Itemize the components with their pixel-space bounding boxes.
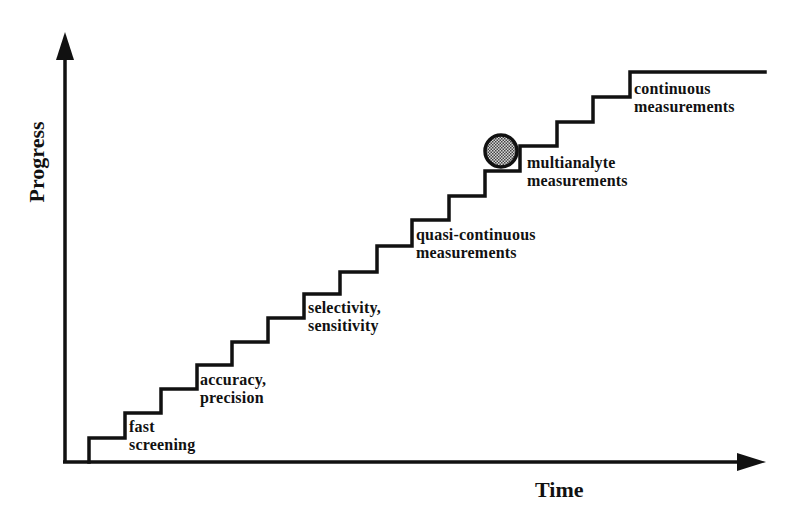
stage-label-line1: quasi-continuous <box>416 226 536 244</box>
stage-label-line1: accuracy, <box>200 371 266 389</box>
stage-label-fast-screening: fast screening <box>129 418 195 454</box>
y-axis-arrowhead <box>56 32 74 60</box>
stage-label-line2: measurements <box>634 98 735 116</box>
x-axis-arrowhead <box>737 453 766 471</box>
stage-label-line1: continuous <box>634 80 735 98</box>
stage-label-line1: multianalyte <box>527 154 628 172</box>
staircase-diagram <box>0 0 798 525</box>
x-axis-label: Time <box>535 477 583 503</box>
stage-label-line2: sensitivity <box>308 317 381 335</box>
stage-label-continuous: continuous measurements <box>634 80 735 116</box>
stage-label-line2: measurements <box>527 172 628 190</box>
stage-label-multianalyte: multianalyte measurements <box>527 154 628 190</box>
stage-label-line2: screening <box>129 436 195 454</box>
stage-label-quasi-continuous: quasi-continuous measurements <box>416 226 536 262</box>
progress-staircase <box>89 72 765 462</box>
stage-label-line2: measurements <box>416 244 536 262</box>
stage-label-line1: selectivity, <box>308 299 381 317</box>
y-axis-label: Progress <box>24 121 50 202</box>
stage-label-accuracy-precision: accuracy, precision <box>200 371 266 407</box>
stage-label-selectivity-sensitivity: selectivity, sensitivity <box>308 299 381 335</box>
current-stage-marker <box>485 135 517 167</box>
stage-label-line2: precision <box>200 389 266 407</box>
stage-label-line1: fast <box>129 418 195 436</box>
